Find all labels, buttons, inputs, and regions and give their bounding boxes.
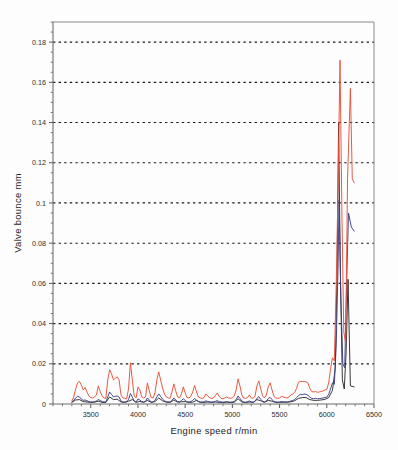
y-tick-label-0.02: 0.02 [32,359,46,368]
valve-bounce-line-chart: 00.020.040.060.080.10.120.140.160.18 350… [0,0,398,450]
y-tick-label-0.06: 0.06 [32,279,46,288]
x-tick-label-5500: 5500 [272,410,288,419]
y-axis-title: Valve bounce mm [12,173,23,253]
x-tick-label-6500: 6500 [366,410,382,419]
x-tick-label-4000: 4000 [130,410,146,419]
y-tick-label-0.08: 0.08 [32,239,46,248]
y-tick-label-0.04: 0.04 [32,319,46,328]
y-tick-label-0.18: 0.18 [32,38,46,47]
chart-figure: 00.020.040.060.080.10.120.140.160.18 350… [0,0,398,450]
x-axis-title: Engine speed r/min [170,425,257,436]
x-tick-label-5000: 5000 [224,410,240,419]
y-tick-label-0.16: 0.16 [32,78,46,87]
x-tick-label-6000: 6000 [319,410,335,419]
x-tick-label-3500: 3500 [83,410,99,419]
y-tick-label-0.14: 0.14 [32,118,46,127]
y-tick-label-0: 0 [42,400,46,409]
x-tick-label-4500: 4500 [177,410,193,419]
y-tick-label-0.12: 0.12 [32,158,46,167]
y-tick-label-0.1: 0.1 [36,199,46,208]
